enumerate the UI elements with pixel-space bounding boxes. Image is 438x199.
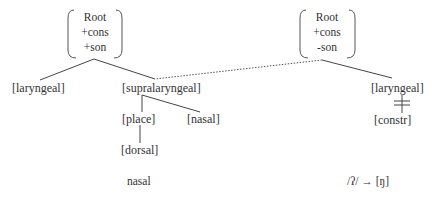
right-root-node: Root +cons -son <box>300 10 354 60</box>
left-laryngeal-node: [laryngeal] <box>12 81 65 95</box>
constr-node: [constr] <box>374 113 411 127</box>
supralaryngeal-node: [supralaryngeal] <box>122 81 201 95</box>
left-caption: nasal <box>127 175 151 187</box>
line-root-supralaryngeal <box>94 59 155 79</box>
tree-lines <box>0 0 438 199</box>
left-root-cons: +cons <box>68 25 122 40</box>
line-rroot-laryngeal <box>322 60 392 78</box>
right-root-label: Root <box>300 10 354 25</box>
left-root-label: Root <box>68 10 122 25</box>
line-supra-nasal <box>142 95 200 112</box>
left-root-son: +son <box>68 40 122 55</box>
place-node: [place] <box>122 112 155 126</box>
line-root-laryngeal <box>40 59 94 80</box>
right-root-son: -son <box>300 40 354 55</box>
dorsal-node: [dorsal] <box>121 143 158 157</box>
left-root-node: Root +cons +son <box>68 10 122 60</box>
right-caption: /ʔ/ → [ŋ] <box>347 175 389 187</box>
dotted-spreading-link <box>155 60 322 79</box>
right-laryngeal-node: [laryngeal] <box>371 81 424 95</box>
nasal-feature-node: [nasal] <box>187 112 220 126</box>
right-root-cons: +cons <box>300 25 354 40</box>
